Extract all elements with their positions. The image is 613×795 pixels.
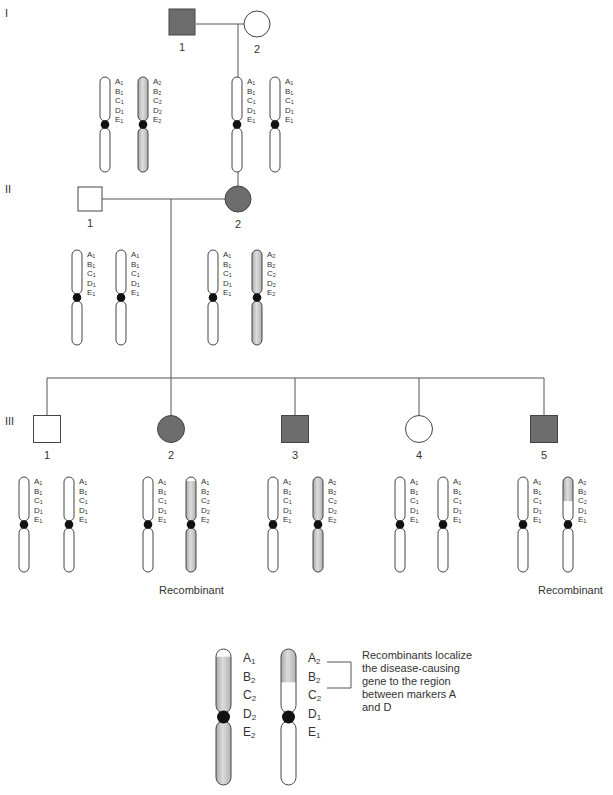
disease-chromosome [252, 250, 262, 345]
enlarged-recombinant-chromosome-right [281, 649, 296, 785]
marker-labels: A2B2C2D1E1 [578, 478, 587, 526]
affected-male-symbol [282, 416, 309, 443]
generation-label-I: I [5, 7, 8, 19]
affected-female-symbol [158, 416, 185, 443]
normal-chromosome [208, 250, 218, 345]
normal-chromosome [518, 477, 528, 572]
normal-chromosome [143, 477, 153, 572]
marker-labels: A1B1C1D1E1 [283, 478, 292, 526]
recombinant-chromosome [186, 477, 196, 572]
individual-number: 2 [247, 43, 267, 55]
marker-labels: A1B1C1D1E1 [533, 478, 542, 526]
marker-labels: A1B2C2D2E2 [201, 478, 210, 526]
unaffected-male-symbol [78, 187, 102, 211]
normal-chromosome [100, 77, 110, 172]
affected-male-symbol [169, 9, 195, 35]
recombinant-chromosome [563, 477, 573, 572]
marker-labels: A1B1C1D1E1 [410, 478, 419, 526]
enlarged-recombinant-chromosome-left [216, 649, 231, 785]
disease-chromosome [313, 477, 323, 572]
individual-number: 3 [285, 449, 305, 461]
marker-labels: A1B1C1D1E1 [158, 478, 167, 526]
marker-labels: A2B2C2D2E2 [328, 478, 337, 526]
unaffected-female-symbol [244, 11, 270, 37]
individual-number: 2 [228, 218, 248, 230]
individual-number: 1 [80, 217, 100, 229]
marker-labels: A2B2C2D2E2 [267, 251, 276, 299]
individual-number: 1 [172, 41, 192, 53]
normal-chromosome [395, 477, 405, 572]
normal-chromosome [232, 77, 242, 172]
disease-chromosome [138, 77, 148, 172]
recombinant-label-III-5: Recombinant [538, 584, 603, 596]
marker-labels: A1B1C1D1E1 [223, 251, 232, 299]
normal-chromosome [438, 477, 448, 572]
normal-chromosome [116, 250, 126, 345]
recombinant-label-III-2: Recombinant [159, 584, 224, 596]
individual-number: 2 [161, 449, 181, 461]
normal-chromosome [19, 477, 29, 572]
individual-number: 1 [37, 449, 57, 461]
unaffected-male-symbol [34, 416, 61, 443]
normal-chromosome [72, 250, 82, 345]
marker-labels: A1B1C1D1E1 [285, 78, 294, 126]
marker-labels: A1B1C1D1E1 [34, 478, 43, 526]
normal-chromosome [64, 477, 74, 572]
affected-male-symbol [531, 416, 558, 443]
enlarged-marker-labels-left: A1B2C2D2E2 [243, 651, 256, 744]
individual-number: 5 [534, 449, 554, 461]
region-bracket [327, 662, 351, 688]
normal-chromosome [268, 477, 278, 572]
affected-female-symbol [225, 186, 251, 212]
unaffected-female-symbol [406, 416, 433, 443]
marker-labels: A1B1C1D1E1 [115, 78, 124, 126]
pedigree-figure: IIIIII12A1B1C1D1E1A2B2C2D2E2A1B1C1D1E1A1… [0, 0, 613, 795]
individual-number: 4 [409, 449, 429, 461]
generation-label-III: III [5, 415, 14, 427]
marker-labels: A1B1C1D1E1 [247, 78, 256, 126]
marker-labels: A1B1C1D1E1 [131, 251, 140, 299]
annotation-text: Recombinants localizethe disease-causing… [362, 649, 472, 714]
marker-labels: A1B1C1D1E1 [453, 478, 462, 526]
generation-label-II: II [5, 183, 11, 195]
marker-labels: A1B1C1D1E1 [79, 478, 88, 526]
enlarged-marker-labels-right: A2B2C2D1E1 [308, 651, 321, 744]
normal-chromosome [270, 77, 280, 172]
marker-labels: A2B2C2D2E2 [153, 78, 162, 126]
pedigree-lines [0, 0, 613, 795]
marker-labels: A1B1C1D1E1 [87, 251, 96, 299]
